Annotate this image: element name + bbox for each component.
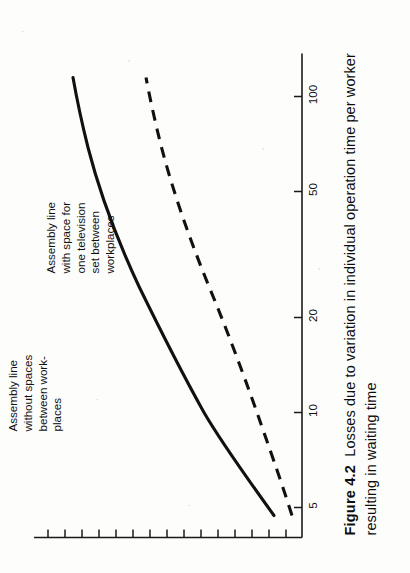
y-axis-ticks [48,529,286,537]
series-dashed-curve [146,77,292,515]
chart-svg [34,51,324,539]
x-tick-label-20: 20 [306,309,319,322]
x-tick-label-100: 100 [306,84,319,103]
scanned-page: 5 10 20 50 100 Assembly line without spa… [0,0,410,573]
figure-caption: Figure 4.2 Losses due to variation in in… [340,35,381,535]
x-axis-ticks [294,96,302,507]
x-tick-label-5: 5 [306,502,319,508]
dashed-curve-annotation: Assembly line with space for one televis… [44,161,118,273]
figure-number: Figure 4.2 [342,465,358,536]
x-tick-label-10: 10 [306,404,319,417]
figure-stage: 5 10 20 50 100 Assembly line without spa… [0,0,410,573]
x-axis [294,53,302,537]
chart-plot-area: 5 10 20 50 100 [34,51,324,539]
series-solid-curve [73,77,274,515]
y-axis [34,529,302,537]
solid-curve-annotation: Assembly line without spaces between wor… [6,323,65,431]
x-tick-label-50: 50 [306,183,319,196]
